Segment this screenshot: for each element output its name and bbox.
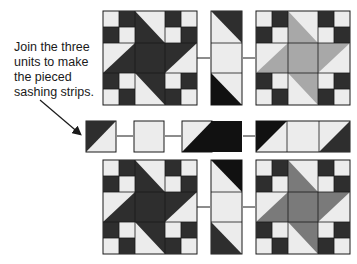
sashing-unit-hst-right: [182, 121, 212, 152]
quilt-block-top-right: [256, 11, 350, 105]
sashing-unit-hst-left: [86, 121, 116, 152]
quilt-assembly-diagram: [0, 0, 357, 264]
quilt-block-bottom-left: [103, 160, 197, 254]
sashing-strip-top-center: [211, 11, 242, 105]
sashing-unit-plain: [134, 121, 164, 152]
sashing-strip-bottom-center: [211, 160, 242, 254]
sashing-units-middle-left: [86, 121, 212, 152]
sashing-strip-middle-right: [256, 121, 350, 152]
pointer-arrow: [40, 100, 80, 134]
quilt-block-top-left: [103, 11, 197, 105]
cornerstone-square: [211, 121, 242, 152]
quilt-block-bottom-right: [256, 160, 350, 254]
